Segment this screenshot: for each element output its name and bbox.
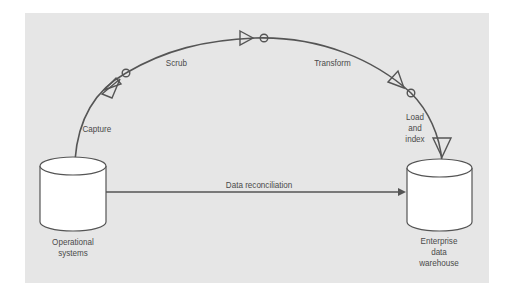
load-and-index-label: Load and index (402, 111, 428, 144)
capture-label: Capture (83, 123, 112, 134)
operational-systems-cylinder-icon (40, 157, 106, 231)
transform-label: Transform (314, 57, 350, 68)
enterprise-data-warehouse-label: Enterprise data warehouse (416, 235, 462, 268)
scrub-label: Scrub (166, 57, 187, 68)
data-reconciliation-label: Data reconciliation (226, 179, 292, 190)
load-arrow-icon (433, 138, 451, 157)
operational-systems-label: Operational systems (50, 236, 96, 258)
enterprise-data-warehouse-cylinder-icon (407, 159, 472, 231)
reconciliation-arrow-icon (398, 188, 406, 196)
pipeline-curve (75, 38, 442, 162)
